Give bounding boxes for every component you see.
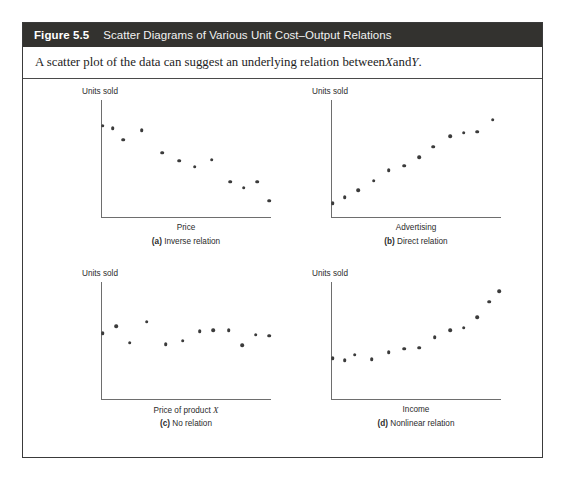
data-point [402,347,406,351]
figure-header-bar: Figure 5.5 Scatter Diagrams of Various U… [23,23,542,47]
data-point [498,290,502,294]
data-point [211,328,215,332]
data-point [370,357,374,361]
y-axis-label-a: Units sold [82,87,118,96]
data-point [448,134,452,138]
plot-area-a: Units sold [61,87,279,225]
data-point [372,179,376,183]
data-point [418,346,422,350]
x-axis-label-a: Price [101,223,271,232]
y-axis-label-b: Units sold [312,87,348,96]
panel-caption-letter-a: (a) [152,237,162,246]
y-axis-line-a [101,100,102,218]
data-point [387,168,391,172]
data-point [140,129,144,133]
data-point [343,359,347,363]
data-point [193,165,197,169]
data-point [387,350,391,354]
data-point [343,195,347,199]
data-point [256,180,260,184]
x-axis-label-variable-c: X [213,405,219,415]
subtitle-text-before: A scatter plot of the data can suggest a… [35,55,385,70]
data-point [111,126,115,130]
panel-caption-letter-c: (c) [160,419,170,428]
x-axis-label-b: Advertising [331,223,501,232]
y-axis-line-c [101,282,102,400]
y-axis-label-c: Units sold [82,269,118,278]
panel-caption-c: (c) No relation [101,419,271,428]
panel-caption-text-d: Nonlinear relation [388,419,454,428]
data-point [115,325,119,329]
data-point [228,180,232,184]
data-point [240,343,244,347]
data-point [462,131,466,135]
data-point [254,333,258,337]
plot-area-d: Units sold [291,269,509,407]
x-axis-line-a [101,217,271,218]
y-axis-line-d [331,282,332,400]
data-point [210,158,214,162]
y-axis-label-d: Units sold [312,269,348,278]
figure-number: Figure 5.5 [34,29,89,41]
data-point [164,342,168,346]
data-point [331,356,335,360]
data-point [181,339,185,343]
data-point [121,138,125,142]
data-point [433,335,437,339]
data-point [128,341,132,345]
subtitle-variable-y: Y [411,55,418,70]
scatter-panel-d: Units sold Income (d) Nonlinear relation [291,269,509,447]
data-point [227,328,231,332]
scatter-panel-b: Units sold Advertising (b) Direct relati… [291,87,509,265]
data-point [331,201,335,205]
data-point [487,300,491,304]
data-point [353,353,357,357]
data-point [160,151,164,155]
data-point [475,315,479,319]
panel-caption-text-a: Inverse relation [162,237,220,246]
x-axis-label-text-a: Price [177,223,196,232]
figure-title: Scatter Diagrams of Various Unit Cost–Ou… [103,29,391,41]
figure-subtitle: A scatter plot of the data can suggest a… [23,47,542,79]
figure-container: Figure 5.5 Scatter Diagrams of Various U… [22,22,543,458]
panel-caption-b: (b) Direct relation [331,237,501,246]
x-axis-label-d: Income [331,405,501,414]
data-point [418,156,422,160]
panel-caption-a: (a) Inverse relation [101,237,271,246]
plot-area-c: Units sold [61,269,279,407]
panel-caption-text-b: Direct relation [395,237,448,246]
data-point [448,328,452,332]
scatter-panel-c: Units sold Price of product X (c) No rel… [61,269,279,447]
data-point [198,329,202,333]
data-point [101,124,105,128]
data-point [268,199,272,203]
x-axis-line-d [331,399,501,400]
data-point [491,118,495,122]
data-point [242,186,246,190]
x-axis-label-c: Price of product X [101,405,271,415]
subtitle-text-between: and [393,55,411,70]
data-point [145,320,149,324]
x-axis-line-c [101,399,271,400]
panel-caption-text-c: No relation [170,419,212,428]
plot-area-b: Units sold [291,87,509,225]
panels-grid: Units sold Price (a) Inverse relation Un… [23,79,542,457]
data-point [431,145,435,149]
panel-caption-letter-b: (b) [384,237,394,246]
panel-caption-letter-d: (d) [378,419,388,428]
subtitle-variable-x: X [385,55,393,70]
scatter-panel-a: Units sold Price (a) Inverse relation [61,87,279,265]
subtitle-text-after: . [418,55,421,70]
x-axis-label-text-b: Advertising [396,223,437,232]
x-axis-line-b [331,217,501,218]
data-point [177,159,181,163]
data-point [268,334,272,338]
data-point [101,332,105,336]
data-point [475,130,479,134]
x-axis-label-text-d: Income [403,405,430,414]
panel-caption-d: (d) Nonlinear relation [331,419,501,428]
data-point [462,326,466,330]
data-point [402,164,406,168]
x-axis-label-text-c: Price of product [153,406,213,415]
data-point [356,188,360,192]
